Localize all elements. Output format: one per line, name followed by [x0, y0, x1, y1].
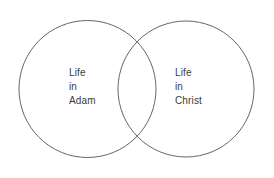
venn-label-right: Life in Christ — [175, 66, 202, 108]
venn-label-right-line-2: in — [175, 80, 202, 94]
venn-label-left-line-2: in — [69, 80, 96, 94]
venn-label-left-line-3: Adam — [69, 94, 96, 108]
venn-label-left: Life in Adam — [69, 66, 96, 108]
venn-label-left-line-1: Life — [69, 66, 96, 80]
venn-label-right-line-1: Life — [175, 66, 202, 80]
venn-diagram-graphic — [0, 0, 274, 178]
venn-diagram-canvas: Life in Adam Life in Christ — [0, 0, 274, 178]
venn-label-right-line-3: Christ — [175, 94, 202, 108]
